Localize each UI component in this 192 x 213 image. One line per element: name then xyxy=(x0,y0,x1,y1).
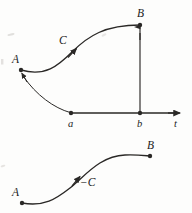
label-A-bottom: A xyxy=(11,186,20,198)
label-a-tick: a xyxy=(68,118,73,129)
mapping-arc-a-to-A xyxy=(22,73,70,112)
label-B-bottom: B xyxy=(147,139,154,151)
point-B-bottom-marker xyxy=(148,154,152,158)
point-B-top-marker xyxy=(138,23,142,27)
label-t-axis: t xyxy=(174,118,178,129)
curve-negC-direction-arrow-icon xyxy=(72,177,80,187)
label-C-top: C xyxy=(59,34,67,46)
point-A-top-marker xyxy=(19,68,23,72)
tick-a-marker xyxy=(69,111,73,115)
point-A-bottom-marker xyxy=(20,201,24,205)
label-b-tick: b xyxy=(137,118,142,129)
curve-C-path xyxy=(21,25,140,72)
label-A-top: A xyxy=(11,53,20,65)
figure-container: A B C a b t A B −C xyxy=(0,0,192,213)
label-negC-bottom: −C xyxy=(80,176,96,188)
curve-C-direction-arrow-icon xyxy=(68,49,77,58)
curve-orientation-figure: A B C a b t A B −C xyxy=(0,0,192,213)
label-B-top: B xyxy=(137,7,144,19)
